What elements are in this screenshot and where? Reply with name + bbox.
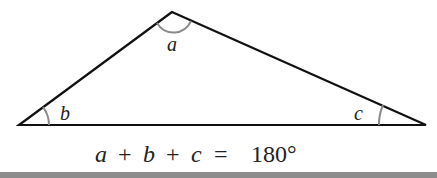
equation-value: 180° xyxy=(251,141,297,167)
equation-a: a xyxy=(95,141,107,167)
bottom-border-bar xyxy=(0,172,437,178)
angle-arc-c xyxy=(379,105,383,125)
equation-b: b xyxy=(143,141,155,167)
angle-arc-a xyxy=(157,21,191,33)
equation-c: c xyxy=(191,141,202,167)
angle-label-b: b xyxy=(60,102,70,124)
angle-label-c: c xyxy=(354,102,363,124)
equation-equals: = xyxy=(214,141,228,167)
triangle xyxy=(19,12,426,125)
angle-label-a: a xyxy=(167,33,177,55)
angle-arc-b xyxy=(43,107,49,125)
triangle-diagram: a b c a + b + c = 180° xyxy=(0,0,437,178)
equation-plus-1: + xyxy=(118,141,132,167)
equation-plus-2: + xyxy=(166,141,180,167)
equation: a + b + c = 180° xyxy=(95,141,297,167)
